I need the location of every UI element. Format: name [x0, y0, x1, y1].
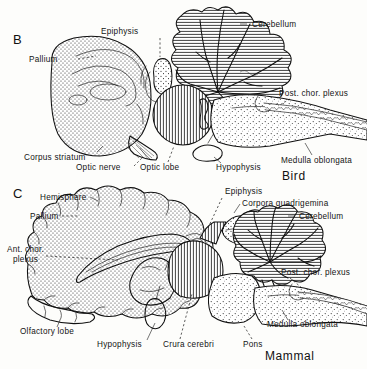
label-mammal-epiphysis: Epiphysis — [225, 187, 262, 196]
label-mammal-medulla: Medulla oblongata — [267, 320, 338, 329]
bird-optic-lobe-structure — [153, 85, 213, 145]
label-mammal-post-chor-plexus: Post. chor. plexus — [281, 268, 350, 277]
bird-pallium-region — [51, 36, 151, 156]
label-bird-epiphysis: Epiphysis — [101, 27, 138, 36]
label-bird-cerebellum: Cerebellum — [252, 20, 296, 29]
label-bird-pallium: Pallium — [29, 55, 58, 64]
label-bird-medulla: Medulla oblongata — [281, 156, 352, 165]
label-bird-post-chor-plexus: Post. chor. plexus — [279, 89, 348, 98]
label-mammal-hemisphere: Hemisphere — [40, 193, 87, 202]
label-mammal-pallium: Pallium — [30, 212, 59, 221]
panel-letter-b: B — [13, 32, 22, 47]
label-mammal-olfactory-lobe: Olfactory lobe — [20, 327, 74, 336]
mammal-pons-structure — [208, 273, 260, 323]
label-mammal-hypophysis: Hypophysis — [97, 340, 142, 349]
comparative-brain-figure: B — [0, 0, 367, 369]
label-bird-optic-nerve: Optic nerve — [76, 163, 121, 172]
label-bird-corpus-striatum: Corpus striatum — [24, 153, 86, 162]
label-mammal-ant-chor-1: Ant. chor. — [7, 245, 44, 254]
label-bird-optic-lobe: Optic lobe — [140, 163, 180, 172]
label-mammal-crura-cerebri: Crura cerebri — [163, 340, 214, 349]
label-mammal-corpora-quadrigemina: Corpora quadrigemina — [242, 199, 329, 208]
label-bird-hypophysis: Hypophysis — [216, 163, 261, 172]
panel-letter-c: C — [13, 186, 23, 201]
label-mammal-cerebellum: Cerebellum — [299, 212, 343, 221]
label-mammal-pons: Pons — [243, 340, 263, 349]
taxon-mammal: Mammal — [265, 349, 315, 363]
label-mammal-ant-chor-2: plexus — [13, 255, 38, 264]
taxon-bird: Bird — [282, 169, 306, 183]
